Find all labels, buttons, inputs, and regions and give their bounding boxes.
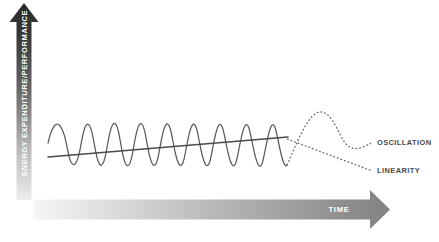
diagram-canvas: ENERGY EXPENDITURE/PERFORMANCE TIME OSCI… (0, 0, 439, 242)
oscillation-observed-path (48, 123, 287, 166)
diagram-svg: ENERGY EXPENDITURE/PERFORMANCE TIME OSCI… (0, 0, 439, 242)
legend-label-oscillation: OSCILLATION (377, 138, 432, 147)
x-axis-label: TIME (329, 205, 350, 214)
y-axis-label: ENERGY EXPENDITURE/PERFORMANCE (20, 10, 29, 176)
y-axis-arrow: ENERGY EXPENDITURE/PERFORMANCE (10, 3, 39, 200)
oscillation-projected-path (287, 112, 370, 165)
linearity-projected-path (288, 139, 371, 170)
linearity-observed-path (48, 137, 288, 157)
x-axis-arrow: TIME (33, 190, 390, 229)
legend-label-linearity: LINEARITY (377, 166, 420, 175)
